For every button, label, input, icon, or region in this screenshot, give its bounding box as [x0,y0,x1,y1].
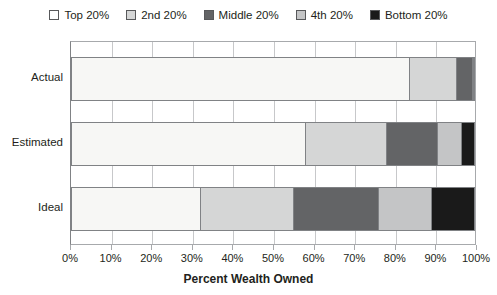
legend-item-label: Bottom 20% [385,9,448,21]
legend-swatch-icon [126,10,136,20]
y-axis-label: Estimated [0,136,63,148]
x-axis-tick-label: 90% [424,252,446,264]
x-axis-tick-label: 100% [462,252,490,264]
legend-item[interactable]: Bottom 20% [370,9,448,21]
tick-mark [70,245,71,250]
x-axis-tick-label: 20% [140,252,162,264]
legend-swatch-icon [370,10,380,20]
legend-item-label: 2nd 20% [141,9,186,21]
tick-mark [476,245,477,250]
legend-swatch-icon [204,10,214,20]
x-axis-tick-label: 60% [303,252,325,264]
x-axis-tick-label: 70% [343,252,365,264]
x-axis-tick-label: 50% [262,252,284,264]
legend-item-label: Middle 20% [219,9,279,21]
legend-swatch-icon [296,10,306,20]
y-axis-label: Actual [0,71,63,83]
chart-legend: Top 20%2nd 20%Middle 20%4th 20%Bottom 20… [0,9,497,21]
y-axis-category-labels: ActualEstimatedIdeal [0,41,497,245]
tick-mark [111,245,112,250]
legend-item[interactable]: Middle 20% [204,9,279,21]
tick-mark [151,245,152,250]
legend-item[interactable]: Top 20% [49,9,109,21]
tick-mark [232,245,233,250]
tick-mark [435,245,436,250]
x-axis-tick-label: 30% [181,252,203,264]
legend-swatch-icon [49,10,59,20]
x-axis-tick-label: 80% [384,252,406,264]
wealth-distribution-chart: Top 20%2nd 20%Middle 20%4th 20%Bottom 20… [0,0,497,295]
legend-item-label: Top 20% [64,9,109,21]
x-axis-tick-label: 10% [100,252,122,264]
legend-item-label: 4th 20% [311,9,353,21]
tick-mark [273,245,274,250]
tick-mark [314,245,315,250]
tick-mark [192,245,193,250]
x-axis-tick-label: 0% [62,252,78,264]
tick-mark [354,245,355,250]
y-axis-label: Ideal [0,201,63,213]
x-axis-tick-label: 40% [221,252,243,264]
legend-item[interactable]: 2nd 20% [126,9,186,21]
legend-item[interactable]: 4th 20% [296,9,353,21]
x-axis-title: Percent Wealth Owned [0,272,497,286]
tick-mark [395,245,396,250]
